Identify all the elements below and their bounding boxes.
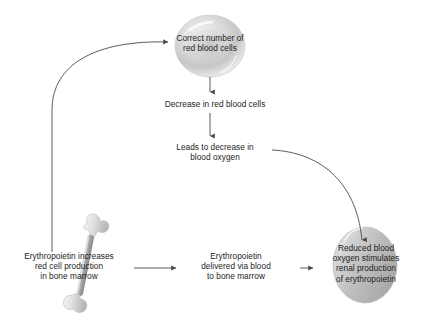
label-erythropoietin-increases-red-cell-production: Erythropoietin increases red cell produc… xyxy=(8,251,130,282)
label-leads-to-decrease-blood-oxygen: Leads to decrease in blood oxygen xyxy=(153,142,277,162)
edge-oxygen-to-kidney xyxy=(272,150,362,240)
label-reduced-blood-oxygen-renal-production: Reduced blood oxygen stimulates renal pr… xyxy=(313,243,419,284)
label-correct-number-red-blood-cells: Correct number of red blood cells xyxy=(163,33,257,53)
label-erythropoietin-delivered-via-blood: Erythropoietin delivered via blood to bo… xyxy=(178,251,294,282)
diagram-canvas: Correct number of red blood cells Decrea… xyxy=(0,0,424,329)
label-decrease-in-red-blood-cells: Decrease in red blood cells xyxy=(140,99,290,109)
edge-marrow-to-rbc xyxy=(52,42,168,252)
